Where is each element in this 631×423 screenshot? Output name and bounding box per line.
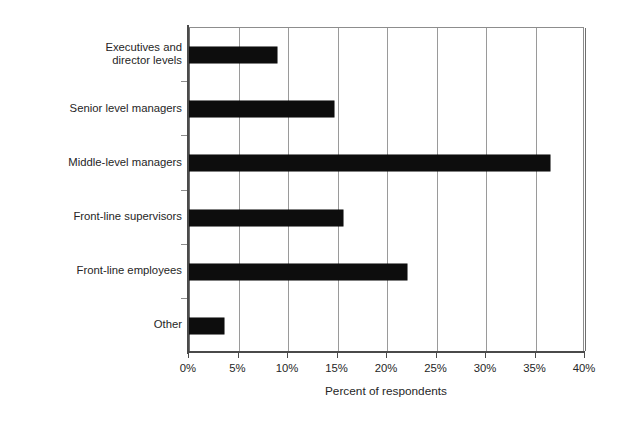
y-axis-label: Front-line employees <box>6 264 182 278</box>
x-axis-tick <box>535 352 536 358</box>
gridline-15% <box>338 28 339 351</box>
gridline-30% <box>486 28 487 351</box>
y-axis-label: Middle-level managers <box>6 156 182 170</box>
x-axis-tick-label: 15% <box>314 361 360 375</box>
x-axis-tick-label: 30% <box>462 361 508 375</box>
x-axis-tick <box>386 352 387 358</box>
gridline-0% <box>189 28 190 351</box>
x-axis-tick <box>485 352 486 358</box>
y-axis-line <box>187 25 189 354</box>
bar <box>189 210 343 226</box>
x-axis-tick-label: 5% <box>215 361 261 375</box>
x-axis-tick <box>287 352 288 358</box>
bar <box>189 318 224 334</box>
y-axis-label: Other <box>6 318 182 332</box>
y-axis-label: Executives and director levels <box>6 41 182 68</box>
gridline-25% <box>437 28 438 351</box>
gridline-20% <box>387 28 388 351</box>
x-axis-tick <box>337 352 338 358</box>
x-axis-tick <box>188 352 189 358</box>
gridline-10% <box>288 28 289 351</box>
gridline-35% <box>536 28 537 351</box>
gridline-5% <box>239 28 240 351</box>
gridline-40% <box>585 28 586 351</box>
x-axis-tick <box>238 352 239 358</box>
y-axis-label: Front-line supervisors <box>6 210 182 224</box>
y-axis-label: Senior level managers <box>6 102 182 116</box>
plot-area <box>188 27 584 352</box>
x-axis-tick-label: 0% <box>165 361 211 375</box>
x-axis-tick-label: 35% <box>512 361 558 375</box>
x-axis-title: Percent of respondents <box>188 384 584 398</box>
bar-chart: Executives and director levelsSenior lev… <box>0 0 631 423</box>
bar <box>189 101 334 117</box>
x-axis-tick-label: 40% <box>561 361 607 375</box>
x-axis-tick-label: 20% <box>363 361 409 375</box>
x-axis-tick <box>436 352 437 358</box>
y-axis-category-labels: Executives and director levelsSenior lev… <box>0 27 182 352</box>
x-axis-tick-label: 25% <box>413 361 459 375</box>
bar <box>189 47 277 63</box>
x-axis-tick <box>584 352 585 358</box>
bar <box>189 264 407 280</box>
x-axis-tick-label: 10% <box>264 361 310 375</box>
bar <box>189 155 550 171</box>
